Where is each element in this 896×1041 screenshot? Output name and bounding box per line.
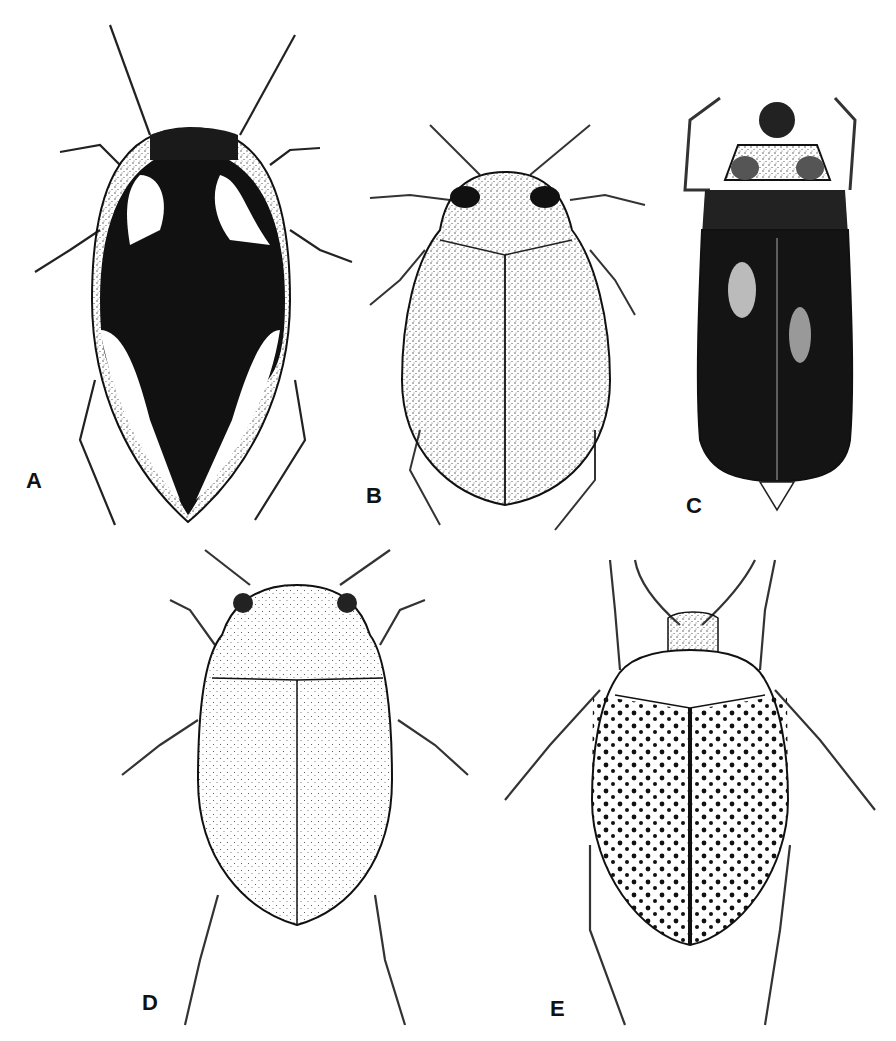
panel-label-c: C [686, 495, 702, 517]
beetle-b-illustration [340, 100, 660, 540]
panel-a: A [0, 0, 360, 540]
panel-label-a: A [26, 470, 42, 492]
panel-label-b: B [366, 485, 382, 507]
panel-d: D [100, 540, 500, 1041]
panel-label-d: D [142, 992, 158, 1014]
beetle-c-illustration [660, 80, 896, 540]
panel-e: E [490, 540, 896, 1041]
panel-label-e: E [550, 998, 565, 1020]
beetle-e-illustration [490, 540, 896, 1041]
panel-b: B [340, 100, 660, 540]
beetle-a-illustration [0, 0, 360, 540]
beetle-d-illustration [100, 540, 500, 1041]
panel-c: C [660, 80, 896, 540]
